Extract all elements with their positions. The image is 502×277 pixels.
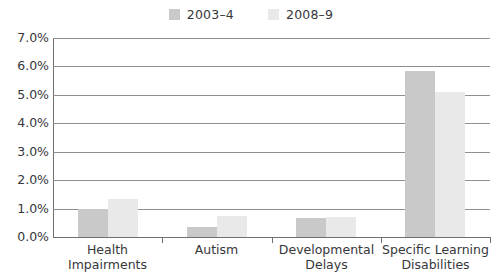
y-axis-tick-label: 4.0% xyxy=(3,117,49,129)
bar xyxy=(108,199,138,237)
y-axis-tick-label: 2.0% xyxy=(3,174,49,186)
bar xyxy=(296,218,326,237)
x-axis-category-label: Autism xyxy=(162,242,271,257)
y-axis-tick-label: 3.0% xyxy=(3,146,49,158)
bar xyxy=(217,216,247,237)
label-line: Autism xyxy=(162,242,271,257)
square-swatch-icon xyxy=(268,9,279,20)
x-axis-category-label: DevelopmentalDelays xyxy=(272,242,381,272)
legend-item-2003-4: 2003–4 xyxy=(169,7,234,22)
bar xyxy=(326,217,356,237)
y-axis-tick-label: 7.0% xyxy=(3,32,49,44)
x-axis-category-label: Specific LearningDisabilities xyxy=(381,242,490,272)
legend-item-2008-9: 2008–9 xyxy=(268,7,333,22)
y-axis-tick-labels: 7.0%6.0%5.0%4.0%3.0%2.0%1.0%0.0% xyxy=(0,38,49,238)
y-axis-tick-label: 5.0% xyxy=(3,89,49,101)
x-axis-tick xyxy=(490,237,491,243)
y-axis-tick-label: 0.0% xyxy=(3,231,49,243)
label-line: Impairments xyxy=(53,257,162,272)
square-swatch-icon xyxy=(169,9,180,20)
x-axis-category-labels: HealthImpairmentsAutismDevelopmentalDela… xyxy=(53,242,490,276)
label-line: Specific Learning xyxy=(381,242,490,257)
chart-legend: 2003–4 2008–9 xyxy=(0,6,502,22)
legend-label: 2008–9 xyxy=(286,7,333,22)
y-axis-tick-label: 1.0% xyxy=(3,203,49,215)
gridline xyxy=(53,38,490,39)
y-axis-tick-label: 6.0% xyxy=(3,60,49,72)
label-line: Disabilities xyxy=(381,257,490,272)
label-line: Delays xyxy=(272,257,381,272)
label-line: Developmental xyxy=(272,242,381,257)
bar xyxy=(435,92,465,237)
bar xyxy=(78,209,108,237)
y-axis-line xyxy=(53,38,54,238)
x-axis-category-label: HealthImpairments xyxy=(53,242,162,272)
label-line: Health xyxy=(53,242,162,257)
gridline xyxy=(53,66,490,67)
bar xyxy=(405,71,435,237)
bar xyxy=(187,227,217,237)
plot-area xyxy=(53,38,490,237)
legend-label: 2003–4 xyxy=(187,7,234,22)
